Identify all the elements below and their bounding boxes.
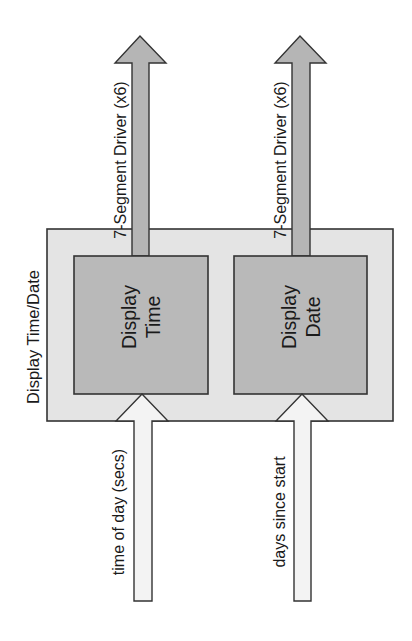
input-label-1: time of day (secs) [110, 449, 127, 575]
container-label: Display Time/Date [24, 270, 42, 404]
display-date-label-line2: Date [302, 296, 324, 337]
display-time-block [74, 256, 208, 394]
display-date-label-line1: Display [278, 285, 300, 349]
input-label-2: days since start [271, 456, 288, 568]
diagram-canvas: Display Time/Date 7-Segment Driver (x6) … [0, 0, 412, 641]
display-date-block [234, 256, 367, 394]
display-time-label-line2: Time [142, 296, 164, 339]
output-label-2: 7-Segment Driver (x6) [272, 81, 289, 238]
output-label-1: 7-Segment Driver (x6) [112, 81, 129, 238]
display-time-label-line1: Display [118, 285, 140, 349]
